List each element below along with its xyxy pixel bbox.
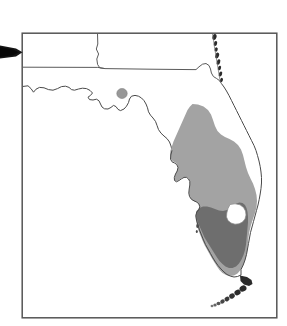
isolated-population-marker (117, 89, 127, 99)
arrow-marker (0, 46, 23, 59)
map-canvas (0, 0, 287, 326)
range-map-figure: Florida and adjacent southeastern United… (0, 0, 287, 326)
lake-okeechobee (227, 204, 247, 224)
